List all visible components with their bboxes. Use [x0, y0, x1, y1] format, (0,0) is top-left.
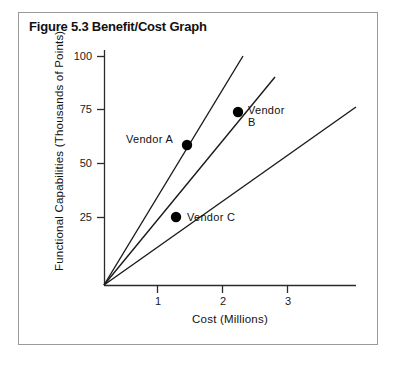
y-axis-title: Functional Capabilities (Thousands of Po… [53, 61, 65, 271]
series-label-vendor-a: Vendor A [126, 133, 173, 145]
y-tick-label-50: 50 [62, 157, 92, 169]
series-label-vendor-c: Vendor C [187, 211, 235, 223]
y-tick-label-25: 25 [62, 211, 92, 223]
y-tick-label-75: 75 [62, 103, 92, 115]
x-tick-label-1: 1 [143, 295, 173, 307]
series-label-vendor-b: Vendor B [248, 104, 285, 128]
y-tick-label-100: 100 [62, 50, 92, 62]
x-tick-label-3: 3 [273, 295, 303, 307]
x-tick-label-2: 2 [208, 295, 238, 307]
x-axis-title: Cost (Millions) [150, 313, 310, 325]
